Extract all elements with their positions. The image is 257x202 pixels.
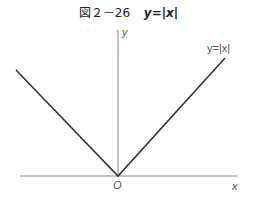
x-axis-label: x <box>232 180 238 192</box>
curve-label: y=|x| <box>207 42 230 54</box>
graph-canvas <box>0 0 257 202</box>
y-axis-label: y <box>122 26 128 38</box>
abs-value-graph <box>16 58 225 176</box>
origin-label: O <box>113 179 122 191</box>
